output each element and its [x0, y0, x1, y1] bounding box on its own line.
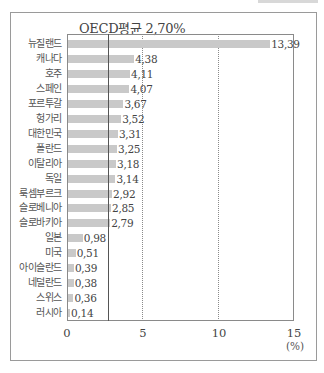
bar-row: 아이슬란드0,39 — [0, 261, 324, 275]
bar — [68, 279, 74, 287]
category-label: 헝가리 — [36, 112, 62, 126]
bar — [68, 55, 134, 63]
bar — [68, 85, 129, 93]
category-label: 캐나다 — [36, 52, 62, 66]
category-label: 뉴질랜드 — [28, 37, 62, 51]
bar-row: 폴란드3,25 — [0, 142, 324, 156]
category-label: 러시아 — [36, 306, 62, 320]
bar-row: 독일3,14 — [0, 172, 324, 186]
category-label: 폴란드 — [36, 142, 62, 156]
value-label: 4,38 — [135, 52, 157, 66]
value-label: 0,98 — [84, 231, 106, 245]
bar-row: 스페인4,07 — [0, 82, 324, 96]
category-label: 아이슬란드 — [19, 261, 62, 275]
category-label: 호주 — [45, 67, 62, 81]
bar-row: 일본0,98 — [0, 231, 324, 245]
value-label: 2,85 — [112, 201, 134, 215]
category-label: 독일 — [45, 172, 62, 186]
bar-row: 이탈리아3,18 — [0, 157, 324, 171]
x-tick-15: 15 — [287, 326, 302, 340]
value-label: 3,25 — [118, 142, 140, 156]
value-label: 4,11 — [131, 67, 153, 81]
bar — [68, 100, 123, 108]
bar-row: 호주4,11 — [0, 67, 324, 81]
category-label: 슬로베니아 — [19, 201, 62, 215]
bar — [68, 234, 83, 242]
bar — [68, 145, 117, 153]
bar-row: 대한민국3,31 — [0, 127, 324, 141]
value-label: 13,39 — [271, 37, 300, 51]
bar — [68, 264, 74, 272]
value-label: 0,36 — [74, 291, 96, 305]
category-label: 포르투갈 — [28, 97, 62, 111]
category-label: 미국 — [45, 246, 62, 260]
value-label: 3,67 — [124, 97, 146, 111]
value-label: 3,14 — [116, 172, 138, 186]
bar-row: 러시아0,14 — [0, 306, 324, 320]
x-axis-unit: (%) — [286, 340, 304, 352]
oecd-average-line — [108, 34, 109, 321]
category-label: 대한민국 — [28, 127, 62, 141]
corner-decoration — [258, 0, 318, 4]
value-label: 3,31 — [119, 127, 141, 141]
bar — [68, 294, 73, 302]
bar — [68, 219, 110, 227]
value-label: 0,51 — [77, 246, 99, 260]
bar-row: 스위스0,36 — [0, 291, 324, 305]
x-tick-0: 0 — [63, 326, 70, 340]
bar — [68, 115, 121, 123]
value-label: 2,92 — [113, 187, 135, 201]
bar — [68, 130, 118, 138]
bar — [68, 70, 130, 78]
bar-row: 룩셈부르크2,92 — [0, 187, 324, 201]
bar-row: 뉴질랜드13,39 — [0, 37, 324, 51]
bar — [68, 40, 270, 48]
bar-row: 미국0,51 — [0, 246, 324, 260]
category-label: 스위스 — [36, 291, 62, 305]
value-label: 0,38 — [75, 276, 97, 290]
bar-row: 네덜란드0,38 — [0, 276, 324, 290]
category-label: 일본 — [45, 231, 62, 245]
category-label: 룩셈부르크 — [19, 187, 62, 201]
bar-row: 슬로베니아2,85 — [0, 201, 324, 215]
value-label: 2,79 — [111, 216, 133, 230]
bar — [68, 204, 111, 212]
value-label: 3,52 — [122, 112, 144, 126]
bar-row: 캐나다4,38 — [0, 52, 324, 66]
x-tick-10: 10 — [212, 326, 227, 340]
bar-row: 슬로바키아2,79 — [0, 216, 324, 230]
category-label: 네덜란드 — [28, 276, 62, 290]
category-label: 이탈리아 — [28, 157, 62, 171]
bar — [68, 190, 112, 198]
value-label: 0,39 — [75, 261, 97, 275]
bar — [68, 309, 70, 317]
bar — [68, 249, 76, 257]
category-label: 슬로바키아 — [19, 216, 62, 230]
bar-row: 헝가리3,52 — [0, 112, 324, 126]
value-label: 3,18 — [117, 157, 139, 171]
category-label: 스페인 — [36, 82, 62, 96]
x-tick-5: 5 — [139, 326, 146, 340]
bar-row: 포르투갈3,67 — [0, 97, 324, 111]
value-label: 4,07 — [130, 82, 152, 96]
value-label: 0,14 — [71, 306, 93, 320]
